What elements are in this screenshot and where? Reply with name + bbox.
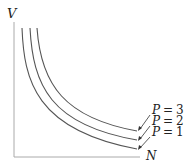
svg-text:P: P bbox=[151, 125, 161, 139]
isobar-diagram: V N P = 3 P = 2 P = 1 bbox=[0, 0, 190, 165]
svg-text:1: 1 bbox=[176, 125, 184, 139]
curve-p3 bbox=[37, 28, 137, 131]
curve-p2 bbox=[30, 28, 137, 140]
svg-text:=: = bbox=[163, 125, 173, 139]
y-axis-label: V bbox=[7, 6, 18, 21]
x-axis-label: N bbox=[145, 149, 157, 163]
label-p1: P = 1 bbox=[151, 125, 184, 139]
